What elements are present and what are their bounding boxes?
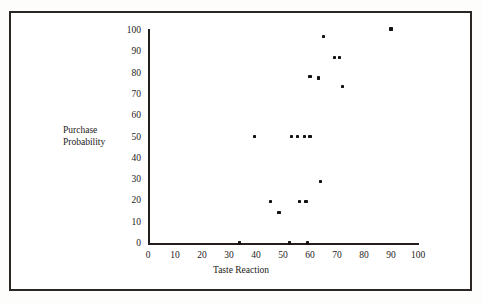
y-tick-label: 100 bbox=[117, 25, 141, 35]
y-axis-title-line-1: Purchase bbox=[63, 125, 105, 137]
x-tick-label: 30 bbox=[217, 250, 241, 260]
y-tick-label: 0 bbox=[117, 238, 141, 248]
y-tick-label: 20 bbox=[117, 195, 141, 205]
data-point bbox=[308, 75, 311, 78]
data-point bbox=[317, 76, 320, 79]
y-tick-label: 80 bbox=[117, 68, 141, 78]
y-tick-label: 40 bbox=[117, 153, 141, 163]
data-point bbox=[290, 135, 293, 138]
data-point bbox=[304, 200, 307, 203]
y-axis-line bbox=[148, 29, 150, 244]
x-tick-label: 50 bbox=[271, 250, 295, 260]
x-tick-label: 40 bbox=[244, 250, 268, 260]
data-point bbox=[338, 56, 341, 59]
data-point bbox=[341, 85, 344, 88]
y-axis-title: Purchase Probability bbox=[63, 125, 105, 148]
scatter-plot: Purchase Probability Taste Reaction 0102… bbox=[0, 0, 483, 304]
data-point bbox=[319, 180, 322, 183]
y-tick-label: 90 bbox=[117, 46, 141, 56]
y-tick-label: 60 bbox=[117, 110, 141, 120]
y-tick-label: 10 bbox=[117, 217, 141, 227]
y-tick-label: 70 bbox=[117, 89, 141, 99]
x-tick-label: 90 bbox=[379, 250, 403, 260]
x-tick-label: 80 bbox=[352, 250, 376, 260]
y-tick-label: 50 bbox=[117, 132, 141, 142]
y-axis-title-line-2: Probability bbox=[63, 137, 105, 149]
data-point bbox=[269, 200, 272, 203]
x-axis-title: Taste Reaction bbox=[213, 265, 269, 277]
data-point bbox=[308, 135, 311, 138]
chart-page: Purchase Probability Taste Reaction 0102… bbox=[0, 0, 483, 304]
data-point bbox=[303, 135, 306, 138]
data-point bbox=[298, 200, 301, 203]
data-point bbox=[288, 241, 291, 244]
x-tick-label: 70 bbox=[325, 250, 349, 260]
x-tick-label: 0 bbox=[136, 250, 160, 260]
x-tick-label: 20 bbox=[190, 250, 214, 260]
x-tick-label: 10 bbox=[163, 250, 187, 260]
data-point bbox=[389, 27, 392, 30]
data-point bbox=[296, 135, 299, 138]
data-point bbox=[306, 241, 309, 244]
x-tick-label: 60 bbox=[298, 250, 322, 260]
data-point bbox=[322, 35, 325, 38]
x-tick-label: 100 bbox=[406, 250, 430, 260]
data-point bbox=[277, 211, 280, 214]
x-axis-line bbox=[148, 243, 419, 245]
data-point bbox=[253, 135, 256, 138]
y-tick-label: 30 bbox=[117, 174, 141, 184]
data-point bbox=[333, 56, 336, 59]
